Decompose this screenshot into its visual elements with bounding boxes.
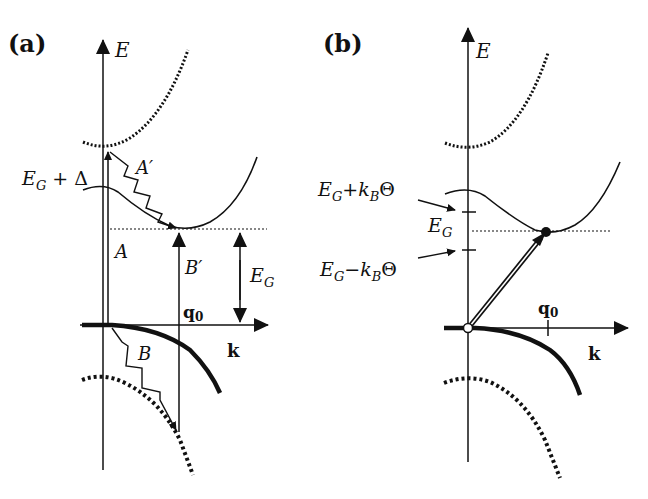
panel-b-label: (b) (323, 29, 363, 58)
k-axis-label: k (227, 340, 240, 361)
conduction-band (83, 157, 257, 228)
pointer-eg-minus (418, 251, 455, 258)
label-q0: q0 (183, 302, 203, 324)
panel-a-label: (a) (8, 29, 46, 58)
label-b: B (137, 343, 151, 364)
conduction-minimum-dot (541, 227, 551, 237)
k-axis-label: k (588, 343, 601, 364)
panel-a: (a) E k A A′ B′ B EG q0 (8, 29, 274, 475)
panel-b: (b) E k EG+kBΘ EG EG−kBΘ (317, 28, 628, 478)
label-eg-plus-kt: EG+kBΘ (317, 178, 395, 204)
label-q0: q0 (538, 298, 558, 320)
upper-conduction-band (83, 50, 188, 146)
phonon-transition-inner (470, 238, 541, 326)
label-eg: EG (427, 214, 452, 240)
split-off-band (82, 377, 193, 475)
conduction-band (445, 162, 620, 232)
upper-conduction-band (445, 53, 548, 147)
label-eg-minus-kt: EG−kBΘ (319, 258, 397, 284)
label-eg: EG (249, 264, 274, 290)
band-diagram: (a) E k A A′ B′ B EG q0 (0, 0, 648, 499)
label-b-prime: B′ (184, 257, 202, 278)
valence-band (444, 328, 580, 395)
split-off-band (444, 378, 560, 478)
label-eg-plus-delta: EG + Δ (21, 167, 88, 193)
label-a: A (113, 241, 128, 262)
hole-origin-dot (464, 324, 473, 333)
pointer-eg-plus (418, 200, 455, 210)
energy-axis-label: E (114, 38, 130, 62)
energy-axis-label: E (475, 39, 491, 63)
label-a-prime: A′ (134, 157, 153, 178)
